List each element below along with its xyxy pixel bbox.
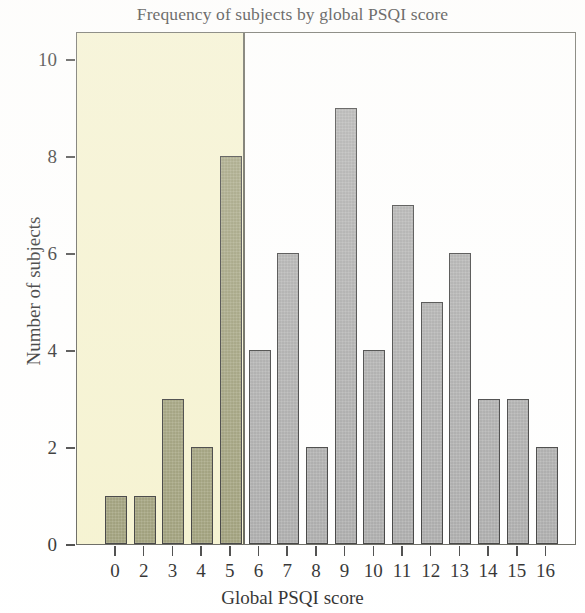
bar-3: [162, 399, 184, 545]
x-tick-mark-4: [200, 546, 202, 556]
bar-4: [191, 447, 213, 544]
bar-8: [306, 447, 328, 544]
x-tick-mark-0: [114, 546, 116, 556]
y-tick-mark-8: [66, 156, 75, 158]
bar-6: [249, 350, 271, 544]
y-tick-label-0: 0: [17, 535, 57, 554]
bar-13: [449, 253, 471, 544]
y-tick-label-6: 6: [17, 244, 57, 263]
x-tick-mark-9: [344, 546, 346, 556]
plot-area: [76, 32, 576, 545]
x-tick-label-16: 16: [526, 560, 566, 582]
bar-14: [478, 399, 500, 545]
x-tick-mark-15: [516, 546, 518, 556]
bar-9: [335, 108, 357, 545]
bars-layer: [77, 33, 575, 544]
bar-0: [105, 496, 127, 545]
y-tick-mark-10: [66, 59, 75, 61]
y-tick-mark-2: [66, 447, 75, 449]
bar-11: [392, 205, 414, 545]
bar-15: [507, 399, 529, 545]
bar-5: [220, 156, 242, 544]
x-tick-mark-10: [373, 546, 375, 556]
x-tick-mark-5: [229, 546, 231, 556]
bar-16: [536, 447, 558, 544]
x-tick-mark-6: [258, 546, 260, 556]
y-tick-label-10: 10: [17, 50, 57, 69]
x-tick-mark-2: [143, 546, 145, 556]
bar-7: [277, 253, 299, 544]
x-tick-mark-12: [430, 546, 432, 556]
y-tick-mark-0: [66, 544, 75, 546]
bar-12: [421, 302, 443, 545]
x-tick-mark-3: [172, 546, 174, 556]
y-tick-mark-6: [66, 253, 75, 255]
chart-figure: Frequency of subjects by global PSQI sco…: [0, 0, 585, 613]
y-tick-label-2: 2: [17, 438, 57, 457]
y-tick-label-8: 8: [17, 147, 57, 166]
x-tick-mark-7: [286, 546, 288, 556]
x-tick-mark-11: [401, 546, 403, 556]
y-tick-label-4: 4: [17, 341, 57, 360]
x-axis-label: Global PSQI score: [0, 587, 585, 609]
chart-title: Frequency of subjects by global PSQI sco…: [0, 3, 585, 25]
y-tick-mark-4: [66, 350, 75, 352]
y-axis-label: Number of subjects: [23, 161, 45, 421]
x-tick-mark-16: [545, 546, 547, 556]
x-tick-mark-14: [487, 546, 489, 556]
bar-10: [363, 350, 385, 544]
bar-2: [134, 496, 156, 545]
x-tick-mark-13: [459, 546, 461, 556]
x-tick-mark-8: [315, 546, 317, 556]
